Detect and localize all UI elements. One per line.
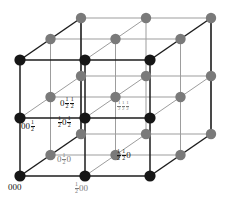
label-0-half-half: 01212: [60, 97, 75, 110]
atom-far-centre: [141, 71, 151, 81]
atom-mid-left: [45, 92, 55, 102]
atom-near-face-centre: [79, 112, 90, 123]
atom-far-edge-t: [141, 13, 151, 23]
label-000: 000: [8, 183, 22, 192]
fraction-one-half: 12: [126, 101, 129, 112]
label-half-half-half: 121212: [117, 101, 130, 112]
atom-far-edge-r: [206, 71, 216, 81]
atom-mid-bot-left: [45, 150, 55, 160]
atom-far-corner-br: [206, 129, 216, 139]
atom-near-corner-tr: [144, 54, 155, 65]
atom-mid-bot-right: [175, 150, 185, 160]
fraction-one-half: 12: [67, 116, 71, 129]
fraction-one-half: 12: [122, 149, 126, 162]
figure-canvas: 000 1200 0120 12120 0012 12012 01212 121…: [0, 0, 226, 207]
label-half-0-0: 1200: [74, 182, 88, 195]
atom-near-corner-bl: [14, 170, 25, 181]
atom-mid-top-left: [45, 34, 55, 44]
fraction-one-half: 12: [117, 149, 121, 162]
label-half-0-half: 12012: [57, 116, 72, 129]
atom-near-edge-r: [144, 112, 155, 123]
fraction-one-half: 12: [122, 101, 125, 112]
atom-mid-top-right: [175, 34, 185, 44]
fraction-one-half: 12: [58, 116, 62, 129]
fraction-one-half: 12: [75, 182, 79, 195]
atom-far-corner-bl: [76, 129, 86, 139]
atom-near-edge-b: [79, 170, 90, 181]
fraction-one-half: 12: [117, 101, 120, 112]
fraction-one-half: 12: [65, 97, 69, 110]
fraction-one-half: 12: [31, 120, 35, 133]
fraction-one-half: 12: [70, 97, 74, 110]
atom-near-edge-t: [79, 54, 90, 65]
lattice-diagram: [0, 0, 226, 207]
label-0-half-0: 0120: [57, 153, 71, 166]
atom-far-edge-l: [76, 71, 86, 81]
atom-near-corner-tl: [14, 54, 25, 65]
atom-far-edge-b: [141, 129, 151, 139]
label-half-half-0: 12120: [116, 149, 131, 162]
fraction-one-half: 12: [62, 153, 66, 166]
atom-far-corner-tl: [76, 13, 86, 23]
atom-near-corner-br: [144, 170, 155, 181]
atom-mid-top-centre: [110, 34, 120, 44]
atom-mid-right: [175, 92, 185, 102]
atom-far-corner-tr: [206, 13, 216, 23]
label-0-0-half: 0012: [21, 120, 35, 133]
